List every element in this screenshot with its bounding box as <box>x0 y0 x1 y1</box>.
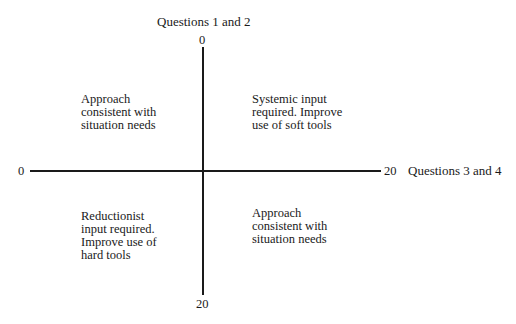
quadrant-top-left-text: Approach consistent with situation needs <box>81 93 156 132</box>
horizontal-axis-title: Questions 3 and 4 <box>408 163 502 178</box>
vertical-axis-bottom-label: 20 <box>196 297 209 311</box>
horizontal-axis-left-label: 0 <box>18 164 24 178</box>
quadrant-bottom-right-text: Approach consistent with situation needs <box>252 207 327 246</box>
quadrant-text-line: situation needs <box>81 119 156 132</box>
quadrant-text-line: hard tools <box>81 249 157 262</box>
quadrant-bottom-left-text: Reductionist input required. Improve use… <box>81 210 157 262</box>
horizontal-axis-line <box>30 170 381 172</box>
vertical-axis-title: Questions 1 and 2 <box>157 14 251 29</box>
horizontal-axis-right-label: 20 <box>384 164 397 178</box>
vertical-axis-top-label: 0 <box>199 33 205 47</box>
quadrant-top-right-text: Systemic input required. Improve use of … <box>252 93 342 132</box>
quadrant-text-line: use of soft tools <box>252 119 342 132</box>
quadrant-text-line: situation needs <box>252 233 327 246</box>
